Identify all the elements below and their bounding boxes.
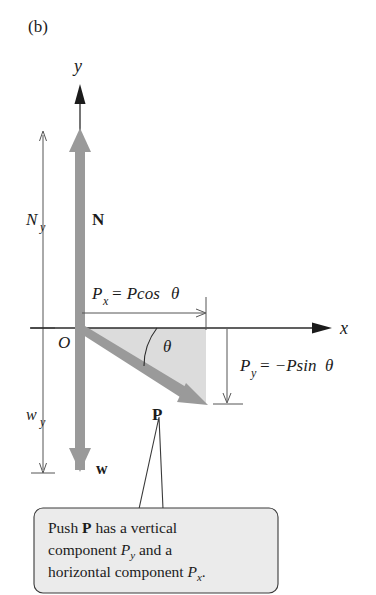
theta-angle-label: θ	[163, 337, 171, 356]
ny-label-sub: y	[39, 220, 46, 234]
px-label-sub: x	[102, 294, 109, 308]
panel-label: (b)	[28, 17, 48, 36]
caption-l1-part1: Push	[48, 519, 82, 536]
py-dimension-line	[213, 329, 243, 404]
callout-tail	[139, 417, 163, 509]
weight-vector	[69, 448, 91, 472]
caption-l2-italic: P	[120, 541, 131, 558]
caption-line-1: Push P has a vertical	[48, 519, 177, 536]
normal-force-label: N	[92, 210, 105, 229]
physics-vector-diagram: (b) N y w y y x O N w	[0, 0, 376, 595]
caption-l2-part2: and a	[135, 541, 172, 558]
wy-dimension-line	[31, 328, 55, 473]
caption-l3-part1: horizontal component	[48, 563, 187, 580]
px-label-main: P	[91, 284, 102, 303]
px-label-theta: θ	[171, 284, 179, 303]
x-axis-label: x	[339, 318, 348, 338]
caption-l3-italic: P	[186, 563, 197, 580]
y-axis-label: y	[72, 56, 82, 76]
tail-base-mask	[140, 509, 162, 512]
caption-l3-part2: .	[202, 563, 206, 580]
normal-force-vector	[69, 128, 91, 470]
wy-label-sub: y	[39, 415, 46, 429]
py-label-main: P	[239, 356, 250, 375]
push-force-label: P	[152, 405, 162, 424]
py-label-sub: y	[250, 366, 257, 380]
wy-label-main: w	[26, 406, 37, 423]
px-label: P x = Pcos θ	[91, 284, 179, 308]
origin-label: O	[58, 333, 70, 352]
px-label-rest: = Pcos	[111, 284, 160, 303]
py-label-theta: θ	[325, 356, 333, 375]
py-label-rest: = −Psin	[259, 356, 316, 375]
weight-label: w	[96, 460, 108, 477]
caption-l2-part1: component	[48, 541, 121, 558]
caption-l1-part2: has a vertical	[92, 519, 178, 536]
py-label: P y = −Psin θ	[239, 356, 333, 380]
ny-label-main: N	[25, 210, 39, 229]
